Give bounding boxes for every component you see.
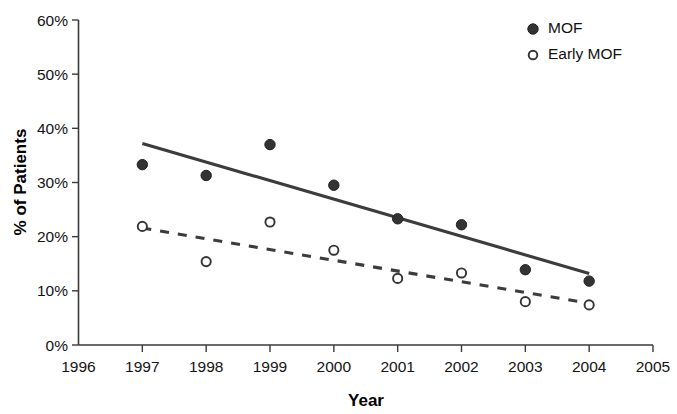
y-tick-label: 40% — [37, 120, 68, 137]
data-point-early-mof — [202, 257, 211, 266]
x-tick-label: 1998 — [189, 358, 223, 375]
y-tick-label: 50% — [37, 66, 68, 83]
data-point-early-mof — [393, 274, 402, 283]
x-tick-label: 1996 — [61, 358, 95, 375]
data-point-mof — [201, 170, 211, 180]
x-tick-label: 2004 — [572, 358, 607, 375]
x-axis-group: 1996199719981999200020012002200320042005… — [61, 345, 670, 410]
legend-label-mof: MOF — [548, 19, 582, 36]
scatter-plot: 0%10%20%30%40%50%60% % of Patients 19961… — [0, 0, 677, 414]
x-tick-label: 2005 — [636, 358, 670, 375]
data-point-early-mof — [138, 222, 147, 231]
data-point-group — [137, 139, 594, 309]
legend-label-early-mof: Early MOF — [548, 45, 622, 62]
x-tick-label: 2002 — [444, 358, 478, 375]
x-tick-label: 1999 — [253, 358, 287, 375]
y-tick-label: 60% — [37, 12, 68, 29]
x-tick-label: 2001 — [380, 358, 414, 375]
data-point-early-mof — [265, 217, 274, 226]
data-point-early-mof — [329, 246, 338, 255]
trendline-mof — [142, 144, 589, 274]
y-tick-label: 20% — [37, 228, 68, 245]
data-point-mof — [456, 220, 466, 230]
data-point-early-mof — [521, 297, 530, 306]
legend: MOFEarly MOF — [528, 19, 622, 62]
legend-marker-early-mof — [529, 51, 538, 60]
data-point-mof — [392, 214, 402, 224]
data-point-mof — [265, 139, 275, 149]
data-point-early-mof — [585, 300, 594, 309]
data-point-mof — [329, 180, 339, 190]
x-tick-label: 2000 — [317, 358, 352, 375]
x-tick-label: 2003 — [508, 358, 542, 375]
data-point-mof — [584, 276, 594, 286]
trendline-group — [142, 144, 589, 304]
data-point-mof — [137, 159, 147, 169]
y-tick-label: 10% — [37, 282, 68, 299]
x-tick-label: 1997 — [125, 358, 159, 375]
y-axis-group: 0%10%20%30%40%50%60% % of Patients — [11, 12, 79, 354]
data-point-mof — [520, 265, 530, 275]
y-tick-label: 0% — [46, 337, 69, 354]
y-axis-title: % of Patients — [11, 129, 30, 236]
legend-marker-mof — [528, 24, 538, 34]
data-point-early-mof — [457, 268, 466, 277]
x-axis-title: Year — [348, 391, 384, 410]
y-tick-label: 30% — [37, 174, 68, 191]
x-tick-group: 1996199719981999200020012002200320042005 — [61, 345, 670, 375]
y-tick-group: 0%10%20%30%40%50%60% — [37, 12, 79, 354]
chart-container: 0%10%20%30%40%50%60% % of Patients 19961… — [0, 0, 677, 414]
